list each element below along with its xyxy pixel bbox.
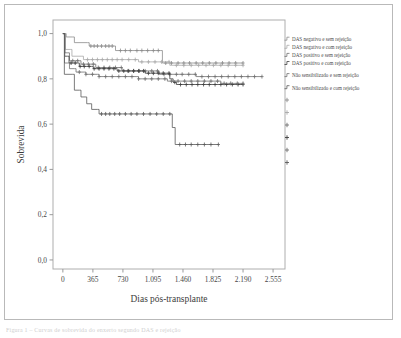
figure-caption: Figura 1 – Curvas de sobrevida do enxert…	[6, 327, 386, 333]
censor-tick	[92, 62, 95, 66]
censor-tick	[146, 49, 149, 53]
legend-censor-4	[285, 135, 289, 139]
censor-tick	[111, 44, 114, 48]
censor-tick	[241, 63, 244, 67]
censor-tick	[208, 83, 211, 87]
censor-tick	[209, 143, 212, 147]
censor-tick	[213, 75, 216, 79]
y-tick-label: 0,0	[38, 256, 48, 265]
censor-tick	[233, 75, 236, 79]
censor-tick	[140, 60, 143, 64]
censor-tick	[179, 83, 182, 87]
legend-censor-1	[285, 98, 289, 102]
x-tick-label: 365	[87, 275, 98, 284]
legend-item-2[interactable]: DAS negativo e com rejeição	[285, 44, 353, 50]
x-tick-label: 1.095	[145, 275, 162, 284]
x-tick-label: 1.825	[205, 275, 222, 284]
censor-tick	[204, 63, 207, 67]
legend-label: Não sensibilizado e com rejeição	[292, 85, 360, 91]
y-axis: 0,00,20,40,60,81,0	[38, 29, 53, 264]
censor-tick	[107, 44, 110, 48]
censor-tick	[190, 63, 193, 67]
censor-tick	[176, 61, 179, 65]
censor-tick	[148, 112, 151, 116]
censor-tick	[147, 60, 150, 64]
y-tick-label: 0,8	[38, 75, 48, 84]
censor-tick	[142, 69, 145, 73]
censor-tick	[253, 75, 256, 79]
censor-tick	[185, 83, 188, 87]
censor-tick	[175, 63, 178, 67]
censor-tick	[111, 75, 114, 79]
censor-tick	[89, 44, 92, 48]
censor-tick	[140, 49, 143, 53]
censor-tick	[118, 112, 121, 116]
censor-tick	[175, 72, 178, 76]
censor-tick	[162, 112, 165, 116]
censor-tick	[153, 60, 156, 64]
censor-tick	[197, 63, 200, 67]
censor-tick	[181, 72, 184, 76]
legend-item-1[interactable]: DAS negativo e sem rejeição	[285, 36, 352, 42]
censor-tick	[220, 75, 223, 79]
curves-group	[63, 34, 264, 147]
censor-tick	[184, 143, 187, 147]
x-axis-title: Dias pós-transplante	[131, 294, 208, 304]
censor-tick	[124, 75, 127, 79]
x-axis: 03657301.0951.4601.8252.1902.555	[61, 269, 282, 284]
censor-tick	[74, 61, 77, 65]
censor-tick	[196, 143, 199, 147]
censor-tick	[137, 77, 140, 81]
plot-frame	[53, 20, 285, 269]
censor-tick	[217, 143, 220, 147]
legend-item-4[interactable]: DAS positivo e com rejeição	[285, 60, 352, 66]
censor-tick	[207, 75, 210, 79]
censor-tick	[113, 112, 116, 116]
censor-tick	[96, 44, 99, 48]
censor-tick	[130, 112, 133, 116]
censor-tick	[246, 75, 249, 79]
censor-tick	[212, 63, 215, 67]
censor-tick	[213, 83, 216, 87]
legend-censor-markers	[285, 98, 289, 165]
censor-tick	[195, 61, 198, 65]
censor-tick	[121, 58, 124, 62]
censor-tick	[219, 63, 222, 67]
survival-curve	[63, 34, 243, 66]
censor-tick	[208, 61, 211, 65]
censor-tick	[124, 112, 127, 116]
censor-tick	[147, 71, 150, 75]
series-1	[63, 34, 245, 65]
censor-tick	[135, 112, 138, 116]
censor-tick	[176, 79, 179, 83]
censor-tick	[91, 58, 94, 62]
censor-tick	[71, 59, 74, 63]
censor-tick	[178, 143, 181, 147]
censor-tick	[104, 44, 107, 48]
legend-item-6[interactable]: Não sensibilizado e com rejeição	[285, 85, 360, 91]
y-tick-label: 0,4	[38, 165, 48, 174]
survival-chart: 0,00,20,40,60,81,003657301.0951.4601.825…	[0, 0, 401, 338]
censor-tick	[96, 58, 99, 62]
legend-item-5[interactable]: Não sensibilizado e sem rejeição	[285, 72, 360, 78]
censor-tick	[132, 69, 135, 73]
legend-label: DAS positivo e sem rejeição	[292, 52, 351, 58]
censor-tick	[119, 49, 122, 53]
censor-tick	[104, 75, 107, 79]
censor-tick	[168, 112, 171, 116]
censor-tick	[86, 58, 89, 62]
survival-curve	[63, 34, 243, 84]
censor-tick	[152, 71, 155, 75]
x-tick-label: 2.555	[265, 275, 282, 284]
survival-curve	[63, 34, 243, 63]
censor-tick	[190, 143, 193, 147]
censor-tick	[69, 61, 72, 65]
censor-tick	[155, 112, 158, 116]
censor-tick	[129, 49, 132, 53]
legend: DAS negativo e sem rejeiçãoDAS negativo …	[285, 36, 360, 91]
censor-tick	[117, 69, 120, 73]
legend-item-3[interactable]: DAS positivo e sem rejeição	[285, 52, 351, 58]
censor-tick	[196, 79, 199, 83]
legend-label: Não sensibilizado e sem rejeição	[292, 72, 359, 78]
censor-tick	[209, 79, 212, 83]
